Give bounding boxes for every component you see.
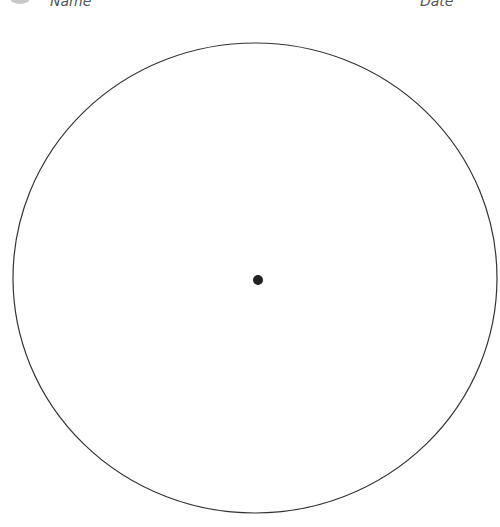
center-point bbox=[253, 275, 263, 285]
circle-drawing bbox=[0, 0, 500, 527]
worksheet-page: Name Date bbox=[0, 0, 500, 527]
